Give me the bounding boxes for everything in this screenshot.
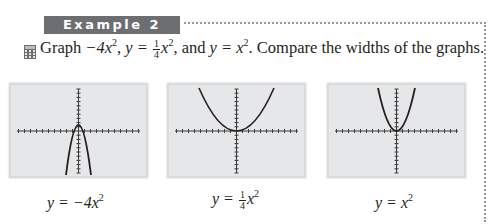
fraction-one-fourth: 14	[153, 39, 160, 60]
dotted-border-right	[484, 22, 486, 222]
caption-fraction: 14	[239, 190, 246, 211]
prompt-compare: Compare the widths of the graphs.	[257, 38, 484, 57]
example-prompt: Graph −4x2, y = 14x2, and y = x2. Compar…	[40, 38, 484, 60]
calculator-icon	[24, 45, 36, 59]
graph-quarter-plot	[167, 83, 306, 178]
prompt-graph-word: Graph	[40, 38, 81, 57]
caption-quarter: y = 14x2	[212, 190, 259, 211]
caption-one: y = x2	[375, 194, 413, 212]
prompt-eq3: y = x	[210, 38, 244, 57]
graph-panel-quarter	[167, 83, 306, 178]
graph-neg4-plot	[9, 83, 148, 178]
prompt-eq2: y =	[125, 38, 152, 57]
example-badge: Example 2	[44, 16, 180, 34]
dotted-border-top	[184, 22, 486, 24]
graph-panel-neg4	[9, 83, 148, 178]
prompt-eq1: −4x	[85, 38, 112, 57]
caption-neg4: y = −4x2	[47, 194, 104, 212]
graph-one-plot	[327, 83, 466, 178]
graph-panel-one	[327, 83, 466, 178]
